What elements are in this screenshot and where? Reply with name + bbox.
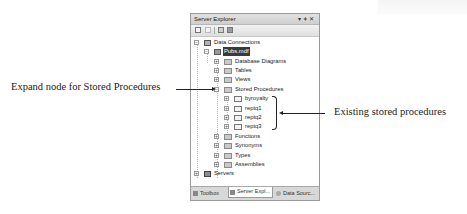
tree-item-label: Synonyms [235,141,262,150]
bracket-icon [272,96,277,130]
database-icon [214,49,221,55]
window-controls[interactable]: ▾ǂ✕ [298,14,316,24]
folder-icon [224,134,232,140]
arrow-right-icon [212,87,216,91]
tree-item-label: Assemblies [235,160,265,169]
expand-icon[interactable]: + [224,124,229,129]
server-explorer-icon [230,190,235,195]
expand-icon[interactable]: + [214,162,219,167]
tree-item-label: reptq3 [245,122,261,131]
collapse-icon[interactable]: − [204,49,209,54]
servers-icon [204,171,211,177]
callout-arrow-line [176,89,212,90]
tree-item-label: Database Diagrams [235,57,286,66]
tree-item-label: reptq2 [245,113,261,122]
refresh-icon[interactable] [195,27,201,33]
folder-icon [224,162,232,168]
connect-database-icon[interactable] [218,27,224,33]
tab-server-explorer[interactable]: Server Expl... [228,187,273,198]
collapse-icon[interactable]: − [194,40,199,45]
tree-item-label: Servers [214,169,234,178]
folder-icon [224,77,232,83]
expand-icon[interactable]: + [214,153,219,158]
callout-existing-procedures: Existing stored procedures [334,106,446,117]
expand-icon[interactable]: + [224,96,229,101]
expand-icon[interactable]: + [214,68,219,73]
stored-procedure-icon [234,124,242,130]
folder-icon [224,143,232,149]
tree-item-label: Tables [235,66,252,75]
callout-arrow-line [283,113,325,114]
expand-icon[interactable]: + [194,171,199,176]
folder-icon [224,87,232,93]
folder-icon [224,153,232,159]
panel-titlebar: Server Explorer ▾ǂ✕ [191,14,319,25]
server-explorer-tree: − Data Connections − Pubs.mdf + Database… [191,38,319,186]
data-sources-icon [276,191,281,196]
expand-icon[interactable]: + [224,106,229,111]
expand-icon[interactable]: + [214,134,219,139]
data-connections-icon [204,40,211,46]
tree-item-label: Views [235,75,250,84]
toolbox-icon [193,191,198,196]
panel-title: Server Explorer [194,16,236,22]
tree-item-label: Types [235,151,250,160]
stored-procedure-icon [234,106,242,112]
folder-icon [224,68,232,74]
tab-label: Data Sourc... [283,190,315,196]
tree-item-label: Functions [235,132,260,141]
tree-item-label: Data Connections [214,38,260,47]
toolbar-separator [214,27,215,34]
stop-icon[interactable] [205,27,211,33]
tree-guide [197,45,198,178]
background-shape [378,0,467,14]
folder-icon [224,59,232,65]
expand-icon[interactable]: + [224,115,229,120]
tree-item-label: Stored Procedures [235,85,283,94]
tree-item-label: byroyalty [245,94,268,103]
tree-item-label: Pubs.mdf [223,47,250,56]
server-explorer-panel: Server Explorer ▾ǂ✕ − Data Connections −… [190,13,320,201]
tree-guide [207,54,208,63]
close-icon[interactable]: ✕ [309,16,316,22]
expand-icon[interactable]: + [214,77,219,82]
tab-label: Toolbox [200,190,219,196]
stored-procedure-icon [234,115,242,121]
connect-server-icon[interactable] [227,27,233,33]
tree-item-label: reptq1 [245,104,261,113]
tab-label: Server Expl... [237,188,270,194]
callout-expand-node: Expand node for Stored Procedures [11,81,160,92]
stored-procedure-icon [234,96,242,102]
panel-toolbar [191,25,319,37]
panel-tab-strip: Toolbox Server Expl... Data Sourc... [191,186,319,200]
expand-icon[interactable]: + [214,143,219,148]
expand-icon[interactable]: + [214,59,219,64]
tab-data-sources[interactable]: Data Sourc... [275,189,319,198]
tab-toolbox[interactable]: Toolbox [192,189,227,198]
